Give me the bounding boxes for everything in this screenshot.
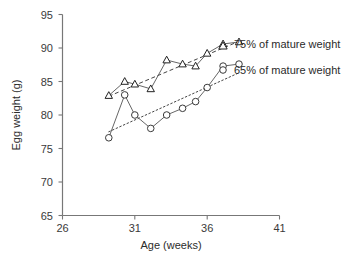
legend-label-65: 65% of mature weight bbox=[234, 64, 340, 76]
legend-label-75: 75% of mature weight bbox=[234, 38, 340, 50]
y-tick-label-75: 75 bbox=[41, 143, 53, 155]
data-point-circle bbox=[147, 125, 154, 132]
y-tick-label-90: 90 bbox=[41, 42, 53, 54]
data-point-circle bbox=[204, 84, 211, 91]
data-point-circle bbox=[163, 112, 170, 119]
data-point-circle bbox=[179, 105, 186, 112]
legend-item-65: 65% of mature weight bbox=[220, 64, 341, 76]
y-tick-label-85: 85 bbox=[41, 76, 53, 88]
x-tick-label-41: 41 bbox=[273, 222, 285, 234]
legend-item-75: 75% of mature weight bbox=[219, 38, 341, 50]
y-axis-title: Egg weight (g) bbox=[10, 80, 22, 151]
data-point-triangle bbox=[163, 56, 170, 63]
chart-svg: 95 90 85 80 75 70 65 26 31 36 41 Age (we… bbox=[0, 0, 343, 261]
x-tick-label-31: 31 bbox=[129, 222, 141, 234]
egg-weight-line-chart: 95 90 85 80 75 70 65 26 31 36 41 Age (we… bbox=[0, 0, 343, 261]
x-axis-title: Age (weeks) bbox=[140, 239, 201, 251]
y-tick-label-95: 95 bbox=[41, 9, 53, 21]
data-point-circle bbox=[105, 134, 112, 141]
y-tick-label-65: 65 bbox=[41, 210, 53, 222]
dataline-65-percent bbox=[109, 64, 239, 138]
legend: 75% of mature weight 65% of mature weigh… bbox=[219, 38, 341, 76]
x-tick-label-26: 26 bbox=[56, 222, 68, 234]
data-point-circle bbox=[132, 112, 139, 119]
plot-data-layer bbox=[105, 38, 243, 141]
y-tick-label-70: 70 bbox=[41, 176, 53, 188]
data-point-circle bbox=[121, 92, 128, 99]
x-tick-label-36: 36 bbox=[201, 222, 213, 234]
x-tick-marks bbox=[63, 216, 280, 220]
y-tick-label-80: 80 bbox=[41, 109, 53, 121]
data-point-triangle bbox=[203, 49, 210, 56]
data-point-circle bbox=[192, 98, 199, 105]
circle-icon bbox=[220, 67, 227, 74]
data-point-triangle bbox=[121, 78, 128, 85]
